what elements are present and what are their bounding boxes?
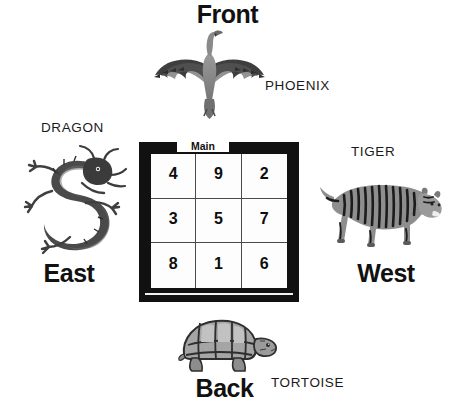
grid-cell: 3 [151,199,196,244]
direction-label-east: East [14,259,124,287]
tortoise-icon [176,311,284,375]
creature-label-dragon: DRAGON [41,120,104,135]
creature-label-phoenix: PHOENIX [265,78,330,93]
direction-label-west: West [330,259,442,287]
main-entrance-label: Main [177,140,229,152]
creature-label-tiger: TIGER [351,144,395,159]
dragon-icon [12,139,130,261]
magic-square-frame: 4 9 2 3 5 7 8 1 6 [139,142,299,302]
grid-cell: 6 [242,243,287,288]
grid-cell: 8 [151,243,196,288]
grid-cell: 7 [242,199,287,244]
grid-cell: 5 [196,199,241,244]
magic-square-grid: 4 9 2 3 5 7 8 1 6 [151,154,287,288]
phoenix-icon [152,25,267,120]
direction-label-back: Back [172,374,277,402]
grid-cell: 2 [242,154,287,199]
frame-bottom-rule [145,293,293,295]
creature-label-tortoise: TORTOISE [271,375,344,390]
grid-cell: 1 [196,243,241,288]
direction-label-front: Front [0,0,455,28]
grid-cell: 9 [196,154,241,199]
grid-cell: 4 [151,154,196,199]
tiger-icon [318,167,448,259]
